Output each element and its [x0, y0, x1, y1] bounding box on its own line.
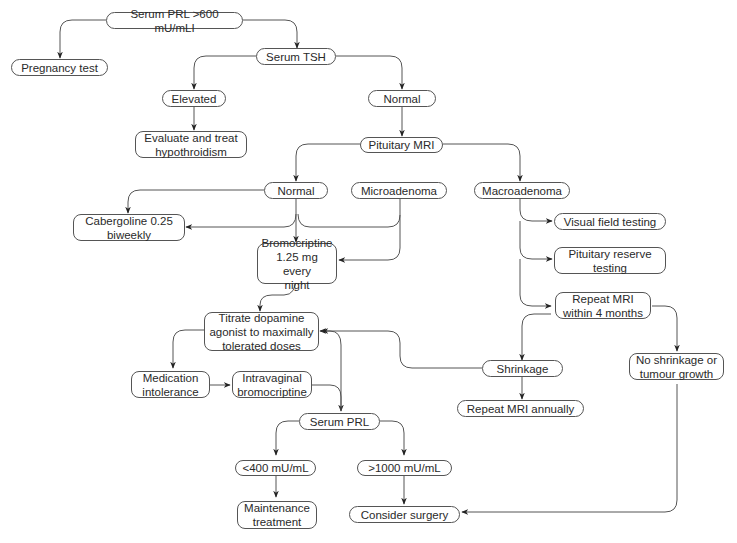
flowchart-canvas: Serum PRL >600 mU/mLI Pregnancy test Ser… [0, 0, 737, 543]
node-consider-surgery: Consider surgery [349, 506, 460, 523]
node-shrinkage: Shrinkage [482, 360, 563, 377]
node-repeat-mri-annually: Repeat MRI annually [457, 400, 584, 417]
node-bromocriptine: Bromocriptine 1.25 mg every night [257, 243, 337, 284]
node-pituitary-reserve-testing: Pituitary reserve testing [554, 247, 666, 274]
node-maintenance-treatment: Maintenance treatment [237, 501, 317, 529]
node-macroadenoma: Macroadenoma [474, 182, 570, 199]
node-normal-mri: Normal [264, 182, 328, 199]
node-serum-prl-followup: Serum PRL [299, 413, 380, 430]
node-normal-tsh: Normal [368, 90, 436, 107]
node-pituitary-mri: Pituitary MRI [360, 137, 443, 153]
node-evaluate-treat: Evaluate and treat hypothroidism [135, 131, 247, 158]
node-titrate-dopamine-agonist: Titrate dopamine agonist to maximally to… [204, 312, 319, 351]
node-serum-tsh: Serum TSH [256, 48, 336, 65]
node-lt-400: <400 mU/mL [235, 460, 316, 476]
node-elevated: Elevated [162, 90, 226, 107]
node-intravaginal-bromocriptine: Intravaginal bromocriptine [232, 371, 312, 398]
node-repeat-mri-4-months: Repeat MRI within 4 months [555, 292, 651, 319]
node-pregnancy-test: Pregnancy test [11, 59, 108, 76]
node-cabergoline: Cabergoline 0.25 biweekly [73, 214, 185, 241]
node-serum-prl-initial: Serum PRL >600 mU/mLI [106, 12, 243, 29]
node-no-shrinkage: No shrinkage or tumour growth [629, 353, 724, 380]
node-gt-1000: >1000 mU/mL [357, 460, 452, 476]
node-microadenoma: Microadenoma [351, 182, 447, 199]
node-medication-intolerance: Medication intolerance [131, 371, 210, 398]
node-visual-field-testing: Visual field testing [554, 213, 666, 230]
